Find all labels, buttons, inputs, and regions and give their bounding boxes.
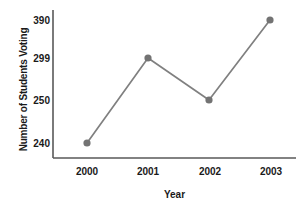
data-point-2001 [144,54,151,61]
data-point-2000 [83,139,90,146]
line-chart: Number of Students Voting 390 299 250 24… [0,0,304,208]
data-point-2003 [266,16,273,23]
data-point-markers [83,16,273,146]
data-series-line [87,20,270,143]
data-point-2002 [205,96,212,103]
plot-area [0,0,304,208]
